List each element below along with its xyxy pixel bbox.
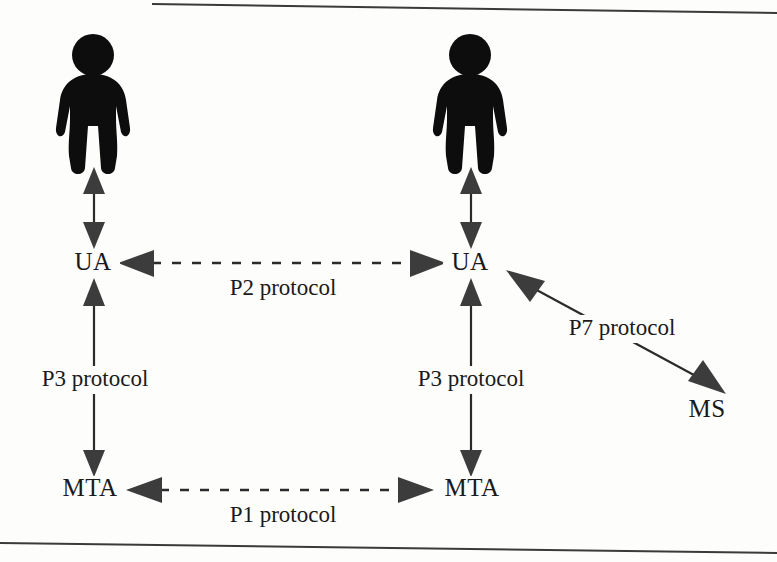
node-label-ms: MS [688, 395, 725, 422]
edge-label-p3-left: P3 protocol [42, 366, 149, 391]
edge-label-p3-right: P3 protocol [418, 366, 525, 391]
node-label-mta-left: MTA [62, 474, 117, 501]
node-label-ua-left: UA [74, 248, 111, 275]
person-icon-left [56, 34, 130, 174]
diagram-canvas: P2 protocol P3 protocol P3 protocol P1 p… [0, 0, 777, 562]
edge-label-p7: P7 protocol [569, 315, 676, 340]
node-label-mta-right: MTA [444, 474, 499, 501]
connector-p2 [118, 250, 446, 277]
connector-p1 [126, 477, 434, 503]
edge-label-p2: P2 protocol [230, 275, 337, 300]
diagram-svg: P2 protocol P3 protocol P3 protocol P1 p… [0, 0, 777, 562]
connector-user-ua-left [83, 167, 105, 249]
edge-label-p1: P1 protocol [230, 502, 337, 527]
page-rule-bottom [0, 543, 777, 553]
page-rule-top [152, 4, 777, 13]
connector-user-ua-right [460, 167, 482, 249]
person-icon-right [433, 34, 507, 174]
node-label-ua-right: UA [451, 248, 488, 275]
